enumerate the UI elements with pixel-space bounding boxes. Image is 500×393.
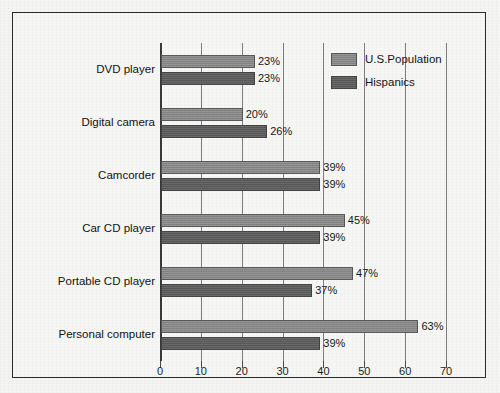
- legend-swatch-icon: [331, 53, 357, 66]
- bar[interactable]: [161, 284, 312, 297]
- bar-value-label: 39%: [323, 336, 345, 350]
- category-label-5: Personal computer: [58, 328, 155, 341]
- bar[interactable]: [161, 125, 267, 138]
- legend-label: Hispanics: [365, 74, 415, 91]
- category-label-1: Digital camera: [82, 116, 156, 129]
- legend-item-0[interactable]: U.S.Population: [331, 51, 481, 71]
- category-label-4: Portable CD player: [58, 275, 155, 288]
- bar[interactable]: [161, 231, 320, 244]
- bar-group-1-series-0: 20%: [161, 108, 447, 121]
- bar-value-label: 39%: [323, 230, 345, 244]
- gridline-40: [323, 43, 324, 361]
- gridline-30: [283, 43, 284, 361]
- chart-legend: U.S.PopulationHispanics: [331, 51, 481, 97]
- x-tick-label-40: 40: [317, 365, 329, 377]
- category-label-2: Camcorder: [98, 169, 155, 182]
- bar-group-5-series-1: 39%: [161, 337, 447, 350]
- x-tick-label-20: 20: [236, 365, 248, 377]
- legend-item-1[interactable]: Hispanics: [331, 74, 481, 94]
- gridline-10: [201, 43, 202, 361]
- bar-value-label: 23%: [258, 54, 280, 68]
- x-tick-label-70: 70: [440, 365, 452, 377]
- bar-value-label: 23%: [258, 71, 280, 85]
- chart-figure: DVD playerDigital cameraCamcorderCar CD …: [0, 0, 500, 393]
- bar-group-3-series-0: 45%: [161, 214, 447, 227]
- legend-label: U.S.Population: [365, 51, 442, 68]
- bar[interactable]: [161, 72, 255, 85]
- bar[interactable]: [161, 108, 243, 121]
- bar-value-label: 37%: [315, 283, 337, 297]
- category-label-0: DVD player: [96, 63, 155, 76]
- bar-group-1-series-1: 26%: [161, 125, 447, 138]
- bar-group-2-series-1: 39%: [161, 178, 447, 191]
- x-tick-label-30: 30: [276, 365, 288, 377]
- bar[interactable]: [161, 178, 320, 191]
- chart-frame: DVD playerDigital cameraCamcorderCar CD …: [12, 12, 486, 378]
- x-tick-label-10: 10: [195, 365, 207, 377]
- bar-value-label: 47%: [356, 266, 378, 280]
- y-axis-line: [160, 43, 162, 361]
- bar[interactable]: [161, 337, 320, 350]
- x-tick-label-50: 50: [358, 365, 370, 377]
- bar-value-label: 63%: [421, 319, 443, 333]
- bar-group-2-series-0: 39%: [161, 161, 447, 174]
- bar[interactable]: [161, 161, 320, 174]
- bar[interactable]: [161, 267, 353, 280]
- bar[interactable]: [161, 320, 418, 333]
- bar-group-3-series-1: 39%: [161, 231, 447, 244]
- gridline-20: [242, 43, 243, 361]
- bar[interactable]: [161, 55, 255, 68]
- bar-value-label: 39%: [323, 160, 345, 174]
- legend-swatch-icon: [331, 76, 357, 89]
- bar-value-label: 20%: [246, 107, 268, 121]
- bar-group-5-series-0: 63%: [161, 320, 447, 333]
- bar-group-4-series-1: 37%: [161, 284, 447, 297]
- category-axis: DVD playerDigital cameraCamcorderCar CD …: [27, 43, 155, 361]
- x-tick-label-60: 60: [399, 365, 411, 377]
- x-tick-label-0: 0: [157, 365, 163, 377]
- bar-value-label: 39%: [323, 177, 345, 191]
- bar-group-4-series-0: 47%: [161, 267, 447, 280]
- category-label-3: Car CD player: [82, 222, 155, 235]
- bar-value-label: 26%: [270, 124, 292, 138]
- bar[interactable]: [161, 214, 345, 227]
- bar-value-label: 45%: [348, 213, 370, 227]
